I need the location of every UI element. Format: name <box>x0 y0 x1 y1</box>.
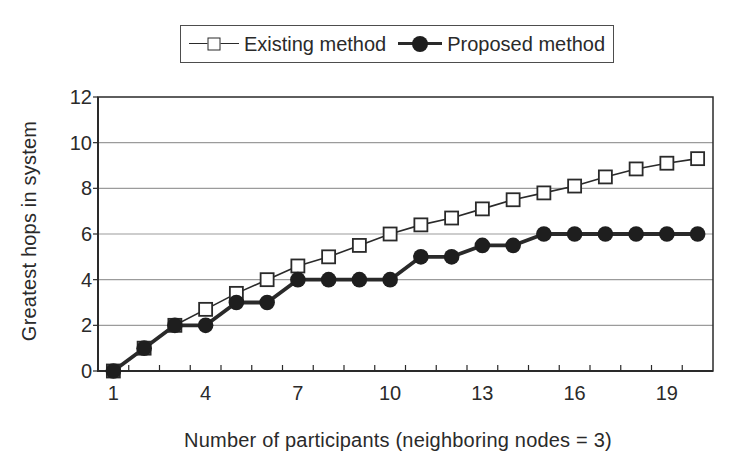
chart-figure: Existing method Proposed method Greatest… <box>0 0 741 461</box>
existing-method-point-7 <box>291 259 304 272</box>
existing-method-point-20 <box>691 152 704 165</box>
existing-method-point-13 <box>476 202 489 215</box>
proposed-method-point-19 <box>659 226 675 242</box>
y-tick-label: 4 <box>81 269 92 291</box>
existing-method-point-17 <box>599 170 612 183</box>
proposed-method-point-6 <box>259 295 275 311</box>
existing-method-point-9 <box>353 239 366 252</box>
proposed-method-point-1 <box>106 363 122 379</box>
x-tick-label: 10 <box>379 382 401 404</box>
existing-method-point-12 <box>445 212 458 225</box>
proposed-method-point-5 <box>229 295 245 311</box>
x-axis-title: Number of participants (neighboring node… <box>184 429 612 451</box>
legend: Existing method Proposed method <box>180 25 614 63</box>
existing-method-point-14 <box>507 193 520 206</box>
proposed-method-point-11 <box>413 249 429 265</box>
existing-method-point-19 <box>660 157 673 170</box>
open-square-marker-icon <box>189 35 239 53</box>
existing-method-point-6 <box>261 273 274 286</box>
existing-method-point-8 <box>322 250 335 263</box>
proposed-method-point-13 <box>475 238 491 254</box>
existing-method-point-11 <box>414 218 427 231</box>
proposed-method-point-16 <box>567 226 583 242</box>
filled-circle-icon <box>412 36 428 52</box>
y-tick-label: 10 <box>70 132 92 154</box>
x-tick-label: 13 <box>471 382 493 404</box>
legend-label-existing-method: Existing method <box>244 33 386 56</box>
proposed-method-point-7 <box>290 272 306 288</box>
proposed-method-point-8 <box>321 272 337 288</box>
x-tick-label: 4 <box>200 382 211 404</box>
legend-label-proposed-method: Proposed method <box>447 33 605 56</box>
proposed-method-point-20 <box>690 226 706 242</box>
existing-method-point-4 <box>199 303 212 316</box>
proposed-method-point-14 <box>505 238 521 254</box>
y-tick-label: 8 <box>81 177 92 199</box>
proposed-method-point-9 <box>352 272 368 288</box>
proposed-method-point-15 <box>536 226 552 242</box>
open-square-icon <box>207 38 220 51</box>
proposed-method-point-2 <box>136 340 152 356</box>
proposed-method-point-12 <box>444 249 460 265</box>
y-axis-title: Greatest hops in system <box>18 121 40 341</box>
x-tick-label: 7 <box>292 382 303 404</box>
proposed-method-point-3 <box>167 318 183 334</box>
proposed-method-point-18 <box>628 226 644 242</box>
proposed-method-point-4 <box>198 318 214 334</box>
y-tick-label: 12 <box>70 86 92 108</box>
existing-method-line <box>113 159 697 371</box>
x-tick-label: 16 <box>564 382 586 404</box>
existing-method-point-10 <box>384 228 397 241</box>
legend-item-existing-method: Existing method <box>189 33 386 56</box>
filled-circle-marker-icon <box>398 35 442 53</box>
legend-item-proposed-method: Proposed method <box>398 33 605 56</box>
y-tick-label: 0 <box>81 360 92 382</box>
y-tick-label: 6 <box>81 223 92 245</box>
x-tick-label: 19 <box>656 382 678 404</box>
existing-method-point-15 <box>537 186 550 199</box>
x-tick-label: 1 <box>108 382 119 404</box>
existing-method-point-16 <box>568 180 581 193</box>
existing-method-point-18 <box>630 162 643 175</box>
proposed-method-point-17 <box>598 226 614 242</box>
y-tick-label: 2 <box>81 314 92 336</box>
proposed-method-point-10 <box>382 272 398 288</box>
plot-area: Greatest hops in system Number of partic… <box>0 0 741 461</box>
